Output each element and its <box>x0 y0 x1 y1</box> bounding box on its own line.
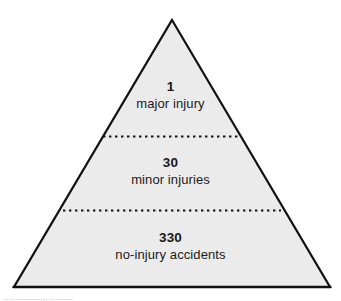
pyramid-graphic <box>0 0 341 301</box>
pyramid-body <box>14 20 330 287</box>
caption-remnant: ............................ <box>3 293 338 301</box>
accident-triangle-figure: 1 major injury 30 minor injuries 330 no-… <box>0 0 341 301</box>
